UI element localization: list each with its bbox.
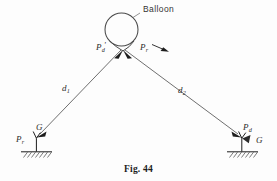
right-support-force-label: Pd (243, 123, 252, 132)
left-support-force-label: Pr (16, 135, 24, 144)
balloon-label: Balloon (143, 5, 174, 14)
left-support-force-sub: r (22, 138, 24, 145)
cable-right-length-base: d (178, 85, 183, 95)
figure-44-diagram: Balloon Pd' Pr d1 d2 G Pr Pd G Fig. 44 (0, 0, 277, 181)
left-support-force-base: P (16, 134, 22, 144)
right-support-g-base: G (256, 135, 263, 145)
apex-left-force-base: P (96, 42, 102, 52)
figure-caption: Fig. 44 (0, 164, 277, 174)
left-support-symbol (21, 132, 52, 158)
balloon-leader-line (133, 13, 140, 18)
apex-right-force-label: Pr (140, 43, 148, 52)
cable-right-length-label: d2 (178, 86, 186, 95)
diagram-canvas (0, 0, 277, 181)
right-support-force-sub: d (249, 126, 252, 133)
apex-left-force-label: Pd' (96, 43, 106, 52)
apex-right-force-base: P (140, 42, 146, 52)
left-support-g-label: G (36, 123, 43, 132)
resultant-arrowhead (161, 47, 169, 52)
right-support-force-base: P (243, 122, 249, 132)
cable-left-d1 (40, 50, 121, 134)
apex-arrowhead-left (114, 50, 123, 59)
apex-right-force-sub: r (146, 46, 148, 53)
right-support-g-label: G (256, 136, 263, 145)
cable-left-length-sub: 1 (67, 87, 70, 94)
right-support-symbol (227, 132, 258, 158)
apex-left-force-prime: ' (104, 41, 106, 50)
cable-right-length-sub: 2 (183, 89, 186, 96)
cable-left-length-label: d1 (62, 84, 70, 93)
cable-left-length-base: d (62, 83, 67, 93)
left-support-g-base: G (36, 122, 43, 132)
